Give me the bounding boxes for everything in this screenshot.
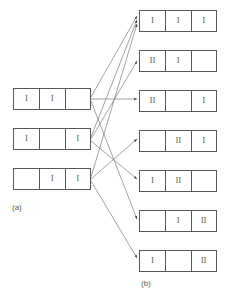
b-row-2: III (139, 50, 217, 72)
b-row-6: III (139, 210, 217, 232)
a-row-1: II (13, 88, 91, 110)
edge-a1-b1 (91, 16, 137, 97)
b-row-2-cell-1: II (140, 51, 165, 71)
a-row-2: II (13, 128, 91, 150)
b-row-7-cell-2 (165, 251, 190, 271)
b-row-5-cell-1: I (140, 171, 165, 191)
b-row-1-cell-1: I (140, 11, 165, 31)
panel-b-label: (b) (141, 279, 151, 288)
edge-a2-b2 (91, 61, 137, 139)
a-row-2-cell-3: I (65, 129, 90, 149)
b-row-6-cell-1 (140, 211, 165, 231)
b-row-4-cell-3: I (191, 131, 216, 151)
b-row-5-cell-2: II (165, 171, 190, 191)
a-row-3-cell-2: I (39, 169, 64, 189)
set-mapping-diagram: IIIIII IIIIIIIIIIIIIIIIIIIII (a) (b) (0, 0, 227, 302)
b-row-3-cell-2 (165, 91, 190, 111)
edge-a2-b5 (91, 141, 137, 179)
b-row-7-cell-1: I (140, 251, 165, 271)
b-row-3-cell-1: II (140, 91, 165, 111)
edge-a3-b1 (91, 24, 137, 177)
edge-a3-b4 (91, 139, 137, 179)
b-row-1-cell-2: I (165, 11, 190, 31)
edge-a2-b1 (91, 20, 137, 137)
b-row-2-cell-2: I (165, 51, 190, 71)
b-row-7-cell-3: II (191, 251, 216, 271)
b-row-3: III (139, 90, 217, 112)
b-row-6-cell-3: II (191, 211, 216, 231)
a-row-3-cell-3: I (65, 169, 90, 189)
a-row-2-cell-1: I (14, 129, 39, 149)
a-row-1-cell-3 (65, 89, 90, 109)
b-row-1: III (139, 10, 217, 32)
b-row-4-cell-1 (140, 131, 165, 151)
mapping-arrows (91, 16, 137, 258)
b-row-4: III (139, 130, 217, 152)
b-row-3-cell-3: I (191, 91, 216, 111)
a-row-3-cell-1 (14, 169, 39, 189)
b-row-5: III (139, 170, 217, 192)
b-row-5-cell-3 (191, 171, 216, 191)
edge-a1-b6 (91, 101, 137, 219)
edge-a3-b7 (91, 181, 137, 258)
b-row-2-cell-3 (191, 51, 216, 71)
a-row-2-cell-2 (39, 129, 64, 149)
b-row-7: III (139, 250, 217, 272)
b-row-1-cell-3: I (191, 11, 216, 31)
a-row-1-cell-2: I (39, 89, 64, 109)
a-row-3: II (13, 168, 91, 190)
b-row-4-cell-2: II (165, 131, 190, 151)
panel-a-label: (a) (12, 203, 22, 212)
b-row-6-cell-2: I (165, 211, 190, 231)
a-row-1-cell-1: I (14, 89, 39, 109)
